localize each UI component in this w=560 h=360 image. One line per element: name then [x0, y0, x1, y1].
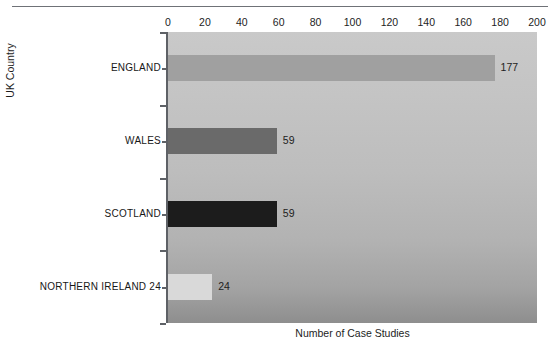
category-tick-mark — [160, 250, 166, 252]
x-tick-label: 60 — [273, 16, 285, 28]
x-axis-title: Number of Case Studies — [168, 327, 537, 339]
figure: 020406080100120140160180200 UK Country N… — [0, 0, 560, 360]
category-tick-mark — [162, 287, 166, 289]
category-tick-mark — [160, 178, 166, 180]
bar-value-label: 177 — [501, 61, 519, 73]
x-tick-label: 200 — [528, 16, 546, 28]
category-tick-mark — [160, 32, 166, 34]
x-tick-label: 0 — [165, 16, 171, 28]
x-axis-tick-labels: 020406080100120140160180200 — [0, 16, 560, 30]
x-tick-label: 40 — [236, 16, 248, 28]
x-tick-label: 180 — [491, 16, 509, 28]
bar — [168, 201, 277, 227]
x-tick-label: 20 — [199, 16, 211, 28]
bar — [168, 274, 212, 300]
x-tick-label: 120 — [381, 16, 399, 28]
bar-value-label: 24 — [218, 280, 230, 292]
y-axis-title: UK Country — [4, 0, 18, 216]
category-tick-mark — [162, 214, 166, 216]
category-label: NORTHERN IRELAND 24 — [34, 279, 166, 295]
category-label: ENGLAND — [105, 60, 166, 76]
category-tick-mark — [160, 105, 166, 107]
category-tick-mark — [160, 323, 166, 325]
x-tick-label: 100 — [344, 16, 362, 28]
x-tick-label: 140 — [418, 16, 436, 28]
x-tick-label: 160 — [454, 16, 472, 28]
bar-value-label: 59 — [283, 134, 295, 146]
category-label: SCOTLAND — [99, 206, 166, 222]
category-tick-mark — [162, 68, 166, 70]
category-tick-mark — [162, 141, 166, 143]
x-tick-label: 80 — [310, 16, 322, 28]
bar — [168, 55, 495, 81]
clipped-caption-text — [188, 0, 488, 1]
category-label: WALES — [119, 133, 166, 149]
bar — [168, 128, 277, 154]
bar-value-label: 59 — [283, 207, 295, 219]
top-horizontal-rule — [12, 6, 548, 7]
